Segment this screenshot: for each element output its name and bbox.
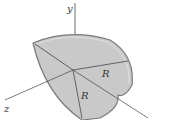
radius-label-2: R bbox=[80, 90, 89, 101]
y-axis-label: y bbox=[66, 3, 73, 14]
shell-surface bbox=[33, 35, 132, 120]
radius-label-1: R bbox=[101, 68, 110, 79]
quarter-hemisphere-diagram: y z R R bbox=[0, 0, 170, 120]
z-axis-label: z bbox=[3, 103, 10, 114]
